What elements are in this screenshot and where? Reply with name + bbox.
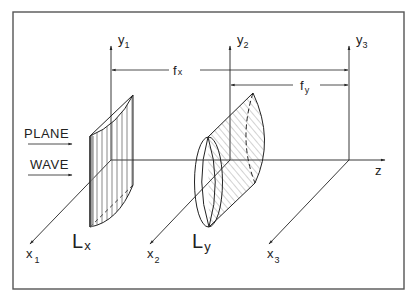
lx-label: Lx <box>72 230 91 253</box>
lens-ly <box>195 93 265 227</box>
ly-label: Ly <box>192 230 211 254</box>
y3-label: y3 <box>356 32 368 50</box>
fy-label: fy <box>300 78 310 95</box>
lens-lx <box>90 95 133 227</box>
x3-label: x3 <box>267 246 280 265</box>
cylindrical-lens-diagram: PLANE WAVE y1 y2 y3 x1 x2 x3 z fx fy Lx … <box>0 0 416 300</box>
y2-label: y2 <box>237 32 249 50</box>
plane-label: PLANE <box>24 126 69 141</box>
x3-axis <box>269 160 349 244</box>
fx-label: fx <box>173 63 183 78</box>
wave-label: WAVE <box>30 157 69 172</box>
x2-label: x2 <box>147 246 160 265</box>
y1-label: y1 <box>118 32 130 50</box>
z-label: z <box>375 163 382 178</box>
x1-label: x1 <box>26 246 40 265</box>
